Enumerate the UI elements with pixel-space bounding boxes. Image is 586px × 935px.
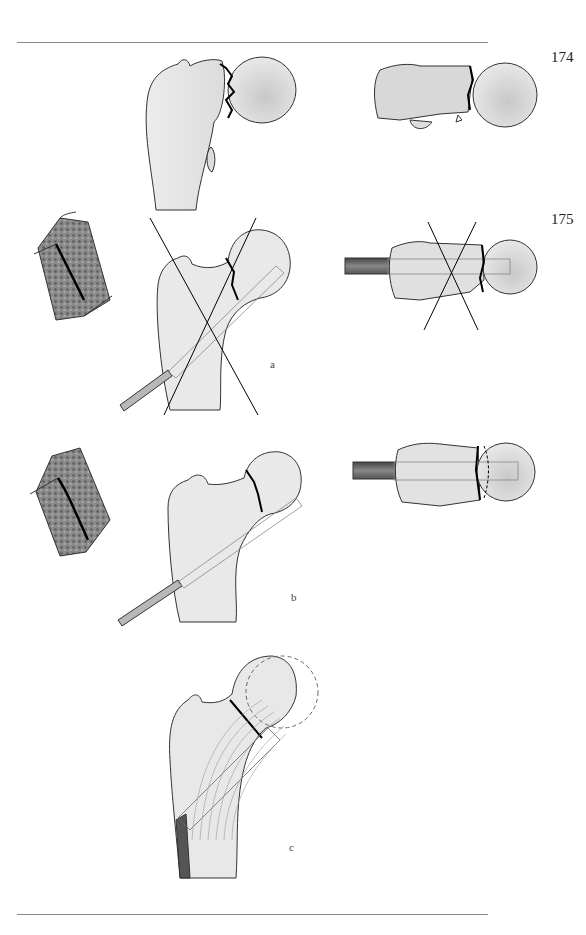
fig175b-femur-axial xyxy=(353,443,535,506)
fig175c-femur-ap xyxy=(170,656,318,878)
fig174-femur-axial xyxy=(374,63,537,129)
fig175a-bone-section xyxy=(34,212,112,320)
illustrations xyxy=(0,0,586,935)
fig175b-femur-ap xyxy=(118,452,302,626)
fig175a-femur-axial xyxy=(345,222,537,330)
fig175b-bone-section xyxy=(30,448,110,556)
fig175a-femur-ap xyxy=(120,218,290,415)
fig174-femur-ap xyxy=(146,57,296,210)
